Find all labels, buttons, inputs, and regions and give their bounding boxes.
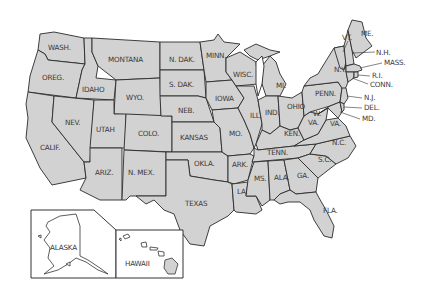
label-ind: IND. bbox=[265, 108, 280, 117]
label-ri: R.I. bbox=[372, 71, 383, 80]
leader-nj bbox=[347, 96, 362, 98]
label-ohio: OHIO bbox=[287, 102, 306, 111]
label-del: DEL. bbox=[364, 103, 380, 112]
label-vt: VT. bbox=[342, 33, 352, 42]
label-nc: N.C. bbox=[332, 138, 346, 147]
label-ala: ALA. bbox=[274, 173, 289, 182]
state-rhode-island[interactable] bbox=[354, 72, 358, 78]
label-wash: WASH. bbox=[48, 43, 71, 52]
label-ariz: ARIZ. bbox=[95, 168, 113, 177]
label-ndak: N. DAK. bbox=[169, 55, 195, 64]
label-ms: MS. bbox=[254, 174, 266, 183]
label-mass: MASS. bbox=[384, 58, 406, 67]
label-montana: MONTANA bbox=[108, 55, 143, 64]
hawaii-island-maui bbox=[158, 251, 164, 256]
label-ga: GA. bbox=[297, 171, 309, 180]
label-oreg: OREG. bbox=[42, 73, 64, 82]
leader-conn bbox=[352, 78, 368, 84]
label-fla: FLA. bbox=[323, 206, 338, 215]
label-mi: MI. bbox=[276, 81, 286, 90]
label-kansas: KANSAS bbox=[180, 133, 208, 142]
label-conn: CONN. bbox=[370, 80, 393, 89]
hawaii-island-oahu bbox=[141, 242, 147, 247]
label-utah: UTAH bbox=[96, 125, 115, 134]
hawaii-island-molokai bbox=[150, 247, 158, 250]
label-okla: OKLA. bbox=[194, 159, 215, 168]
label-nh: N.H. bbox=[376, 48, 390, 57]
leader-ri bbox=[358, 75, 370, 76]
label-wv-w: W. bbox=[313, 109, 321, 118]
label-md: MD. bbox=[362, 114, 375, 123]
label-sdak: S. DAK. bbox=[169, 80, 194, 89]
label-hawaii: HAWAII bbox=[125, 259, 150, 268]
label-wv-va: VA. bbox=[308, 118, 319, 127]
label-iowa: IOWA bbox=[215, 94, 234, 103]
label-la: LA. bbox=[237, 187, 248, 196]
label-tenn: TENN. bbox=[266, 148, 288, 157]
label-mo: MO. bbox=[229, 129, 242, 138]
leader-md bbox=[340, 112, 360, 119]
label-ark: ARK. bbox=[232, 160, 248, 169]
label-wyo: WYO. bbox=[126, 93, 144, 102]
label-sc: S.C. bbox=[318, 155, 331, 164]
label-ny: N.Y. bbox=[334, 65, 346, 74]
leader-del bbox=[344, 107, 362, 108]
label-me: ME. bbox=[361, 29, 373, 38]
label-idaho: IDAHO bbox=[82, 85, 105, 94]
label-wisc: WISC. bbox=[233, 70, 253, 79]
us-states-map: WASH. OREG. CALIF. NEV. IDAHO MONTANA WY… bbox=[0, 0, 428, 300]
label-colo: COLO. bbox=[138, 129, 159, 138]
label-texas: TEXAS bbox=[184, 199, 208, 208]
lake-michigan bbox=[256, 56, 264, 96]
label-ill: ILL. bbox=[250, 111, 262, 120]
label-calif: CALIF. bbox=[40, 143, 60, 152]
state-massachusetts[interactable] bbox=[346, 64, 362, 72]
label-va: VA. bbox=[330, 119, 341, 128]
label-nj: N.J. bbox=[364, 93, 375, 102]
label-penn: PENN. bbox=[315, 89, 336, 98]
label-alaska: ALASKA bbox=[50, 243, 77, 252]
label-nmex: N. MEX. bbox=[128, 168, 155, 177]
label-minn: MINN. bbox=[206, 51, 226, 60]
label-ken: KEN. bbox=[284, 129, 300, 138]
leader-mass bbox=[360, 63, 382, 68]
label-nev: NEV. bbox=[65, 118, 80, 127]
state-michigan[interactable] bbox=[262, 56, 286, 96]
label-neb: NEB. bbox=[178, 106, 194, 115]
